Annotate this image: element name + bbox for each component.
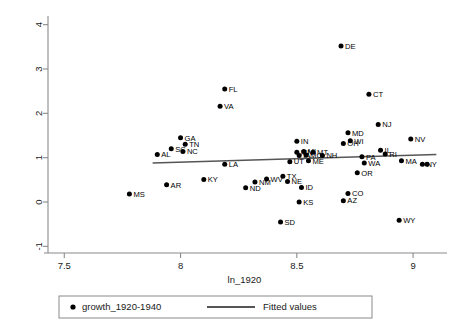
x-tick-label: 8 [178, 260, 183, 271]
data-point-label: OR [361, 169, 373, 178]
data-point-marker[interactable] [425, 162, 430, 167]
x-tick-label: 8.5 [290, 260, 303, 271]
data-point-label: RI [389, 150, 397, 159]
data-points-group: MSALARSCGANCTNKYVAFLLANDNMWVSDTXNEUTINMN… [127, 42, 437, 227]
data-point-marker[interactable] [399, 158, 404, 163]
data-point-label: NH [326, 151, 337, 160]
x-tick-label: 7.5 [58, 260, 71, 271]
y-tick-label: 0 [34, 199, 45, 204]
data-point-marker[interactable] [164, 182, 169, 187]
data-point-marker[interactable] [287, 159, 292, 164]
data-point-marker[interactable] [306, 158, 311, 163]
data-point-marker[interactable] [359, 154, 364, 159]
data-point-marker[interactable] [180, 149, 185, 154]
data-point-marker[interactable] [348, 138, 353, 143]
legend-label-growth: growth_1920-1940 [82, 301, 161, 312]
legend-label-fitted: Fitted values [263, 301, 317, 312]
data-point-marker[interactable] [297, 200, 302, 205]
data-point-marker[interactable] [169, 146, 174, 151]
x-axis-title: ln_1920 [228, 274, 262, 285]
scatter-chart: -1012347.588.59ln_1920 MSALARSCGANCTNKYV… [0, 0, 449, 327]
data-point-label: FL [229, 85, 238, 94]
plot-canvas: -1012347.588.59ln_1920 MSALARSCGANCTNKYV… [0, 0, 449, 327]
data-point-marker[interactable] [320, 153, 325, 158]
y-tick-label: 3 [34, 66, 45, 71]
data-point-marker[interactable] [408, 137, 413, 142]
data-point-label: SD [285, 218, 296, 227]
y-tick-label: 4 [34, 22, 45, 27]
data-point-label: AL [161, 150, 170, 159]
data-point-marker[interactable] [397, 218, 402, 223]
y-tick-label: 2 [34, 111, 45, 116]
data-point-label: WY [403, 216, 415, 225]
data-point-label: ID [305, 183, 313, 192]
data-point-marker[interactable] [297, 153, 302, 158]
data-point-marker[interactable] [355, 170, 360, 175]
data-point-label: KY [208, 175, 218, 184]
chart-legend: growth_1920-1940Fitted values [59, 296, 372, 318]
data-point-label: DE [345, 42, 356, 51]
data-point-label: WI [354, 137, 363, 146]
data-point-marker[interactable] [294, 139, 299, 144]
x-tick-label: 9 [410, 260, 415, 271]
data-point-label: AR [171, 181, 182, 190]
data-point-marker[interactable] [345, 191, 350, 196]
data-point-marker[interactable] [341, 141, 346, 146]
data-point-label: KS [303, 198, 313, 207]
data-point-label: TN [189, 140, 199, 149]
data-point-marker[interactable] [378, 148, 383, 153]
data-point-marker[interactable] [341, 198, 346, 203]
legend-marker-dot [70, 304, 75, 309]
data-point-marker[interactable] [304, 153, 309, 158]
data-point-marker[interactable] [278, 219, 283, 224]
data-point-marker[interactable] [420, 162, 425, 167]
data-point-marker[interactable] [155, 152, 160, 157]
data-point-label: LA [229, 160, 239, 169]
data-point-label: MA [405, 157, 417, 166]
data-point-label: NJ [382, 120, 391, 129]
data-point-marker[interactable] [311, 150, 316, 155]
data-point-marker[interactable] [243, 185, 248, 190]
data-point-marker[interactable] [127, 192, 132, 197]
data-point-label: WA [368, 159, 381, 168]
data-point-label: IN [301, 137, 309, 146]
data-point-marker[interactable] [252, 180, 257, 185]
data-point-marker[interactable] [299, 185, 304, 190]
data-point-marker[interactable] [183, 142, 188, 147]
data-point-marker[interactable] [201, 177, 206, 182]
data-point-label: NV [415, 135, 426, 144]
data-point-marker[interactable] [218, 104, 223, 109]
data-point-label: VA [224, 102, 235, 111]
data-point-marker[interactable] [222, 162, 227, 167]
data-point-marker[interactable] [285, 179, 290, 184]
y-tick-label: 1 [34, 155, 45, 160]
data-point-marker[interactable] [366, 92, 371, 97]
data-point-label: CT [373, 90, 383, 99]
data-point-marker[interactable] [362, 160, 367, 165]
data-point-marker[interactable] [264, 176, 269, 181]
data-point-label: NE [292, 177, 303, 186]
data-point-marker[interactable] [376, 122, 381, 127]
data-point-marker[interactable] [280, 174, 285, 179]
data-point-label: MS [133, 190, 144, 199]
data-point-marker[interactable] [178, 135, 183, 140]
data-point-marker[interactable] [345, 130, 350, 135]
y-tick-label: -1 [34, 242, 45, 250]
data-point-marker[interactable] [222, 86, 227, 91]
data-point-label: AZ [347, 196, 357, 205]
data-point-marker[interactable] [339, 43, 344, 48]
data-point-marker[interactable] [383, 152, 388, 157]
